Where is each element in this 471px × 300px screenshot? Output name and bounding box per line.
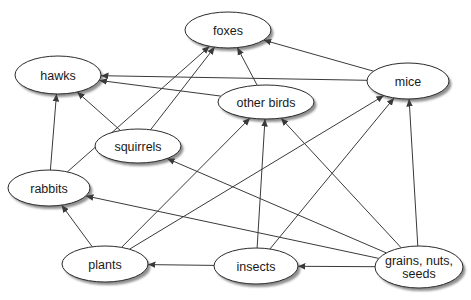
node-squirrels: squirrels	[95, 129, 181, 163]
node-label-insects: insects	[237, 260, 276, 274]
node-label-foxes: foxes	[213, 24, 243, 38]
node-rabbits: rabbits	[8, 170, 90, 206]
edge-mice-to-hawks	[101, 76, 367, 81]
edge-insects-to-other-birds	[257, 119, 265, 248]
node-grains: grains, nuts,seeds	[375, 246, 463, 288]
edge-other-birds-to-foxes	[237, 48, 257, 86]
edge-plants-to-rabbits	[62, 205, 93, 247]
node-foxes: foxes	[185, 12, 271, 48]
node-plants: plants	[62, 246, 148, 282]
edge-squirrels-to-hawks	[77, 92, 120, 131]
edge-grains-to-squirrels	[167, 159, 386, 253]
node-layer: foxeshawksmiceother birdssquirrelsrabbit…	[8, 12, 463, 288]
edge-other-birds-to-hawks	[99, 80, 221, 96]
food-web-diagram: foxeshawksmiceother birdssquirrelsrabbit…	[0, 0, 471, 300]
edge-grains-to-mice	[409, 99, 418, 246]
node-label-rabbits: rabbits	[30, 182, 68, 196]
edge-insects-to-plants	[148, 265, 214, 266]
edge-mice-to-foxes	[264, 40, 374, 71]
node-label-other-birds: other birds	[236, 96, 295, 110]
node-label-mice: mice	[395, 75, 421, 89]
node-other-birds: other birds	[218, 85, 314, 119]
node-label-plants: plants	[88, 258, 121, 272]
node-hawks: hawks	[15, 56, 101, 94]
food-web-svg: foxeshawksmiceother birdssquirrelsrabbit…	[0, 0, 471, 300]
edge-grains-to-other-birds	[281, 118, 401, 248]
edge-rabbits-to-hawks	[50, 94, 56, 170]
node-label-squirrels: squirrels	[114, 140, 161, 154]
node-insects: insects	[214, 248, 298, 284]
node-mice: mice	[367, 63, 449, 99]
node-label-hawks: hawks	[40, 69, 75, 83]
